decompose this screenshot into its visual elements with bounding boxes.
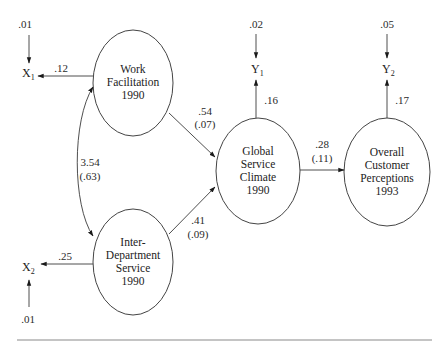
- y1-loading-value: .16: [264, 94, 278, 106]
- indicator-x1: .01 X1 .12: [18, 18, 93, 82]
- ids-to-gsc-se: (.09): [187, 228, 208, 241]
- customer-perceptions-label-4: 1993: [376, 185, 399, 197]
- y2-error-value: .05: [380, 18, 394, 30]
- node-global-service-climate: Global Service Climate 1990: [216, 118, 300, 224]
- global-climate-label-2: Service: [241, 158, 275, 170]
- wf-to-gsc-coef: .54: [198, 105, 212, 117]
- y1-label: Y1: [251, 62, 264, 78]
- covariance-wf-ids: 3.54 (.63): [77, 87, 101, 236]
- y1-error-value: .02: [249, 18, 263, 30]
- x2-error-value: .01: [21, 313, 35, 325]
- work-facilitation-label-1: Work: [120, 63, 146, 75]
- covariance-se: (.63): [79, 170, 100, 183]
- work-facilitation-label-3: 1990: [122, 89, 145, 101]
- x2-loading-value: .25: [58, 250, 72, 262]
- inter-department-label-3: Service: [116, 262, 150, 274]
- path-gsc-to-ocp: .28 (.11): [300, 138, 344, 170]
- ids-to-gsc-coef: .41: [191, 214, 205, 226]
- global-climate-label-3: Climate: [240, 171, 276, 183]
- work-facilitation-label-2: Facilitation: [107, 76, 160, 88]
- gsc-to-ocp-coef: .28: [315, 138, 329, 150]
- indicator-y2: .05 Y2 .17: [380, 18, 409, 118]
- path-ids-to-gsc: .41 (.09): [169, 187, 215, 241]
- global-climate-label-4: 1990: [247, 184, 270, 196]
- gsc-to-ocp-se: (.11): [312, 152, 333, 165]
- path-wf-to-gsc: .54 (.07): [169, 105, 216, 157]
- x1-label: X1: [22, 66, 35, 82]
- path-diagram: Work Facilitation 1990 Inter- Department…: [0, 0, 448, 349]
- y2-loading-value: .17: [395, 94, 409, 106]
- node-work-facilitation: Work Facilitation 1990: [93, 30, 173, 136]
- x2-label: X2: [22, 260, 35, 276]
- inter-department-label-1: Inter-: [120, 236, 145, 248]
- ids-to-gsc-arrow: [169, 187, 215, 234]
- y2-label: Y2: [382, 62, 395, 78]
- customer-perceptions-label-2: Customer: [365, 159, 410, 171]
- global-climate-label-1: Global: [242, 145, 273, 157]
- indicator-x2: X2 .25 .01: [21, 250, 93, 325]
- wf-to-gsc-se: (.07): [194, 118, 215, 131]
- x1-loading-value: .12: [54, 62, 68, 74]
- x1-error-value: .01: [18, 18, 32, 30]
- node-overall-customer-perceptions: Overall Customer Perceptions 1993: [344, 118, 430, 226]
- covariance-coef: 3.54: [80, 156, 100, 168]
- customer-perceptions-label-3: Perceptions: [360, 172, 414, 185]
- customer-perceptions-label-1: Overall: [370, 146, 404, 158]
- inter-department-label-4: 1990: [122, 275, 145, 287]
- node-inter-department-service: Inter- Department Service 1990: [93, 209, 173, 315]
- indicator-y1: .02 Y1 .16: [249, 18, 278, 118]
- inter-department-label-2: Department: [106, 249, 161, 262]
